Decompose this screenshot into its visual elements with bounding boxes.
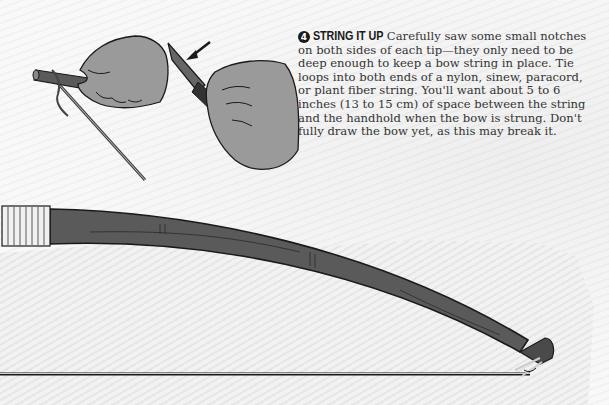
step-number-badge: 4	[298, 31, 310, 43]
bow-limb	[50, 209, 528, 352]
bow-illustration	[0, 206, 554, 376]
step-4-instructions: 4STRING IT UP Carefully saw some small n…	[298, 30, 598, 139]
step-body: Carefully saw some small notches on both…	[298, 29, 586, 138]
right-hand	[206, 61, 298, 170]
step-title: STRING IT UP	[313, 30, 383, 44]
hands-knife-illustration	[33, 36, 299, 180]
